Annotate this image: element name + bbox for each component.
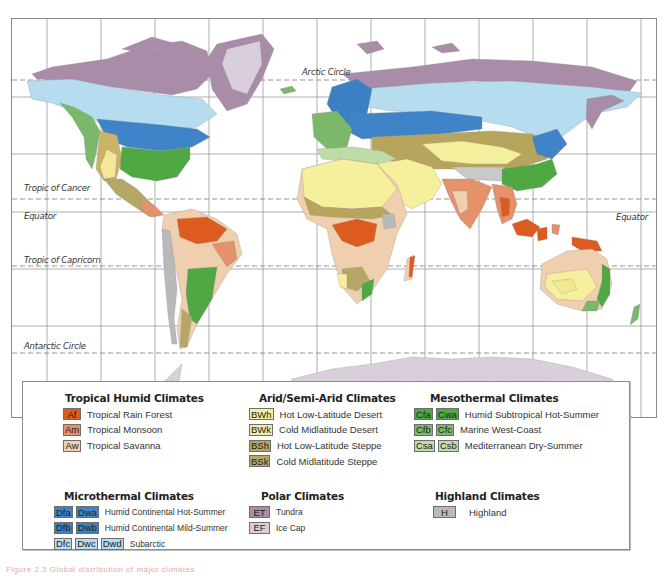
legend-item-bwk: BWk Cold Midlatitude Desert — [249, 423, 396, 438]
legend-label-dfb-dwb: Humid Continental Mild-Summer — [105, 523, 228, 533]
swatch-dwc: Dwc — [75, 538, 97, 550]
south-america — [162, 209, 242, 349]
swatch-af: Af — [63, 408, 81, 420]
map-canvas — [12, 19, 656, 417]
legend-item-am: Am Tropical Monsoon — [63, 423, 204, 438]
swatch-ef: EF — [249, 522, 270, 534]
swatch-et: ET — [249, 506, 270, 518]
swatch-bsk: BSk — [249, 455, 270, 467]
arctic-circle-label: Arctic Circle — [302, 67, 351, 77]
swatch-dwa: Dwa — [76, 506, 99, 518]
legend-title-microthermal: Microthermal Climates — [64, 490, 228, 502]
legend-label-dfc-dwc-dwd: Subarctic — [130, 539, 165, 549]
swatch-dfa: Dfa — [54, 506, 73, 518]
swatch-csb: Csb — [438, 440, 459, 452]
legend-title-mesothermal: Mesothermal Climates — [430, 392, 599, 404]
legend-label-bsk: Cold Midlatitude Steppe — [276, 456, 377, 467]
legend-item-dfb-dwb: Dfb Dwb Humid Continental Mild-Summer — [54, 521, 228, 536]
legend-item-csa-csb: Csa Csb Mediterranean Dry-Summer — [414, 438, 599, 453]
indonesia — [512, 219, 602, 251]
climate-legend: Tropical Humid Climates Af Tropical Rain… — [22, 381, 630, 550]
swatch-h: H — [433, 506, 456, 518]
swatch-am: Am — [63, 424, 81, 436]
legend-title-highland: Highland Climates — [435, 490, 540, 502]
swatch-dwb: Dwb — [76, 522, 99, 534]
world-climate-map: Arctic Circle Tropic of Cancer Equator E… — [11, 18, 657, 418]
legend-item-bwh: BWh Hot Low-Latitude Desert — [249, 407, 396, 422]
legend-item-dfa-dwa: Dfa Dwa Humid Continental Hot-Summer — [54, 505, 228, 520]
legend-label-dfa-dwa: Humid Continental Hot-Summer — [105, 507, 225, 517]
equator-label-left: Equator — [24, 211, 56, 221]
legend-item-et: ET Tundra — [249, 505, 344, 520]
legend-group-highland: Highland Climates H Highland — [433, 490, 540, 521]
australia — [540, 249, 640, 325]
legend-label-bwk: Cold Midlatitude Desert — [279, 424, 378, 435]
legend-group-arid: Arid/Semi-Arid Climates BWh Hot Low-Lati… — [249, 392, 396, 470]
swatch-cwa: Cwa — [436, 408, 459, 420]
legend-label-af: Tropical Rain Forest — [87, 409, 172, 420]
antarctic-circle-label: Antarctic Circle — [24, 341, 86, 351]
swatch-bwk: BWk — [249, 424, 273, 436]
legend-label-am: Tropical Monsoon — [87, 424, 162, 435]
equator-label-right: Equator — [616, 212, 648, 222]
legend-group-polar: Polar Climates ET Tundra EF Ice Cap — [249, 490, 344, 536]
legend-label-cfa-cwa: Humid Subtropical Hot-Summer — [465, 409, 599, 420]
swatch-csa: Csa — [414, 440, 435, 452]
legend-item-aw: Aw Tropical Savanna — [63, 438, 204, 453]
swatch-cfc: Cfc — [436, 424, 454, 436]
swatch-cfa: Cfa — [414, 408, 433, 420]
legend-item-h: H Highland — [433, 505, 540, 520]
legend-label-cfb-cfc: Marine West-Coast — [460, 424, 541, 435]
legend-group-mesothermal: Mesothermal Climates Cfa Cwa Humid Subtr… — [414, 392, 599, 454]
tropic-of-cancer-label: Tropic of Cancer — [24, 183, 90, 193]
legend-title-tropical: Tropical Humid Climates — [65, 392, 204, 404]
legend-item-ef: EF Ice Cap — [249, 521, 344, 536]
legend-label-h: Highland — [469, 507, 507, 518]
legend-item-bsh: BSh Hot Low-Latitude Steppe — [249, 438, 396, 453]
legend-item-bsk: BSk Cold Midlatitude Steppe — [249, 454, 396, 469]
legend-label-et: Tundra — [276, 507, 303, 517]
legend-item-cfa-cwa: Cfa Cwa Humid Subtropical Hot-Summer — [414, 407, 599, 422]
swatch-dfc: Dfc — [54, 538, 72, 550]
legend-group-microthermal: Microthermal Climates Dfa Dwa Humid Cont… — [54, 490, 228, 552]
legend-label-bsh: Hot Low-Latitude Steppe — [277, 440, 382, 451]
swatch-cfb: Cfb — [414, 424, 433, 436]
legend-label-bwh: Hot Low-Latitude Desert — [280, 409, 382, 420]
legend-label-aw: Tropical Savanna — [87, 440, 161, 451]
legend-item-dfc-dwc-dwd: Dfc Dwc Dwd Subarctic — [54, 536, 228, 551]
swatch-bwh: BWh — [249, 408, 274, 420]
legend-title-polar: Polar Climates — [261, 490, 344, 502]
legend-item-cfb-cfc: Cfb Cfc Marine West-Coast — [414, 423, 599, 438]
tropic-of-capricorn-label: Tropic of Capricorn — [24, 255, 101, 265]
legend-label-ef: Ice Cap — [276, 523, 305, 533]
legend-title-arid: Arid/Semi-Arid Climates — [259, 392, 396, 404]
legend-group-tropical: Tropical Humid Climates Af Tropical Rain… — [63, 392, 204, 454]
swatch-bsh: BSh — [249, 440, 271, 452]
figure-caption: Figure 2.3 Global distribution of major … — [6, 565, 195, 574]
swatch-aw: Aw — [63, 440, 81, 452]
swatch-dwd: Dwd — [101, 538, 124, 550]
swatch-dfb: Dfb — [54, 522, 73, 534]
legend-label-csa-csb: Mediterranean Dry-Summer — [465, 440, 583, 451]
legend-item-af: Af Tropical Rain Forest — [63, 407, 204, 422]
